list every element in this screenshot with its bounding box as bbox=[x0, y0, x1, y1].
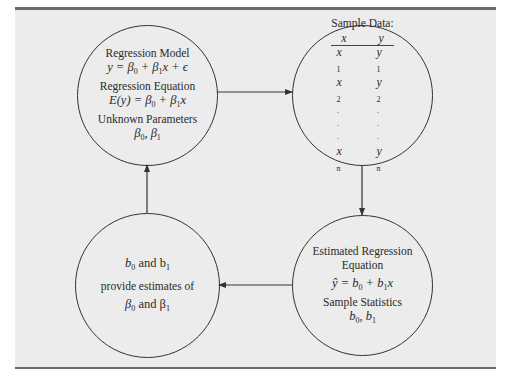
label-sample-data: Sample Data: bbox=[331, 16, 393, 30]
label-unknown-parameters: Unknown Parameters bbox=[98, 112, 197, 126]
sample-statistics-values: b0, b1 bbox=[349, 309, 376, 328]
node-inference: b0 and b1 provide estimates of β0 and β1 bbox=[75, 213, 220, 358]
sample-table-header: x y bbox=[331, 32, 394, 46]
node-sample-data: Sample Data: x y x1y1 x2y2 ·· ·· ·· xnyn bbox=[292, 25, 433, 166]
flow-arrows bbox=[0, 0, 507, 379]
unknown-parameters-values: β0, β1 bbox=[134, 126, 161, 145]
label-sample-statistics: Sample Statistics bbox=[323, 295, 402, 309]
inference-line-parameters: β0 and β1 bbox=[125, 297, 170, 316]
label-regression-model: Regression Model bbox=[105, 46, 189, 60]
sample-data-table: x y x1y1 x2y2 ·· ·· ·· xnyn bbox=[331, 32, 394, 175]
equation-estimated-regression: ŷ = b0 + b1x bbox=[332, 276, 393, 295]
table-row: x1y1 bbox=[331, 46, 394, 76]
equation-regression-equation: E(y) = β0 + β1x bbox=[109, 93, 186, 112]
node-population-model: Regression Model y = β0 + β1x + ϵ Regres… bbox=[77, 25, 218, 166]
table-row: ·· bbox=[331, 119, 394, 132]
col-header-x: x bbox=[341, 32, 346, 45]
inference-line-provide: provide estimates of bbox=[101, 279, 194, 293]
table-row: x2y2 bbox=[331, 76, 394, 106]
node-estimated-regression: Estimated Regression Equation ŷ = b0 + b… bbox=[292, 215, 433, 356]
label-equation: Equation bbox=[342, 258, 384, 272]
table-row: xnyn bbox=[331, 145, 394, 175]
col-header-y: y bbox=[379, 32, 384, 45]
table-row: ·· bbox=[331, 106, 394, 119]
equation-regression-model: y = β0 + β1x + ϵ bbox=[107, 60, 188, 79]
label-regression-equation: Regression Equation bbox=[100, 79, 196, 93]
label-estimated-regression: Estimated Regression bbox=[313, 244, 413, 258]
inference-line-estimates: b0 and b1 bbox=[125, 256, 170, 275]
